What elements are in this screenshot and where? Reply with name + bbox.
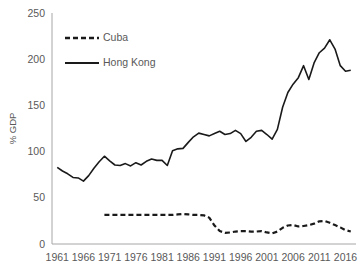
x-tick-label: 1986 (177, 251, 201, 263)
series-line-cuba (104, 214, 350, 233)
y-tick-label: 50 (33, 191, 45, 203)
chart-legend: CubaHong Kong (65, 31, 156, 68)
x-tick-label: 2011 (308, 251, 331, 263)
y-tick-label: 250 (27, 7, 45, 19)
x-axis-tick-labels: 1961196619711976198119861991199620012006… (46, 251, 358, 263)
legend-label-cuba: Cuba (103, 31, 128, 43)
y-tick-label: 0 (39, 238, 45, 250)
data-series-group (57, 40, 351, 234)
x-tick-label: 1991 (203, 251, 227, 263)
y-axis-tick-labels: 050100150200250 (27, 7, 45, 250)
y-axis-title: % GDP (7, 113, 18, 145)
x-tick-label: 1976 (124, 251, 148, 263)
x-tick-label: 1981 (150, 251, 174, 263)
x-tick-label: 2016 (334, 251, 358, 263)
x-tick-label: 2006 (281, 251, 305, 263)
series-line-hong-kong (57, 40, 351, 181)
y-axis-group: 050100150200250 (27, 7, 52, 250)
x-tick-label: 1971 (98, 251, 122, 263)
x-tick-label: 2001 (255, 251, 279, 263)
y-tick-label: 100 (27, 145, 45, 157)
x-tick-label: 1961 (46, 251, 70, 263)
x-tick-label: 1996 (229, 251, 253, 263)
legend-label-hong-kong: Hong Kong (103, 56, 156, 68)
x-axis-group: 1961196619711976198119861991199620012006… (46, 244, 358, 263)
y-tick-label: 200 (27, 53, 45, 65)
gdp-line-chart: 050100150200250 196119661971197619811986… (0, 0, 362, 275)
y-tick-label: 150 (27, 99, 45, 111)
chart-plot-area: 050100150200250 196119661971197619811986… (0, 0, 362, 275)
x-tick-label: 1966 (72, 251, 96, 263)
